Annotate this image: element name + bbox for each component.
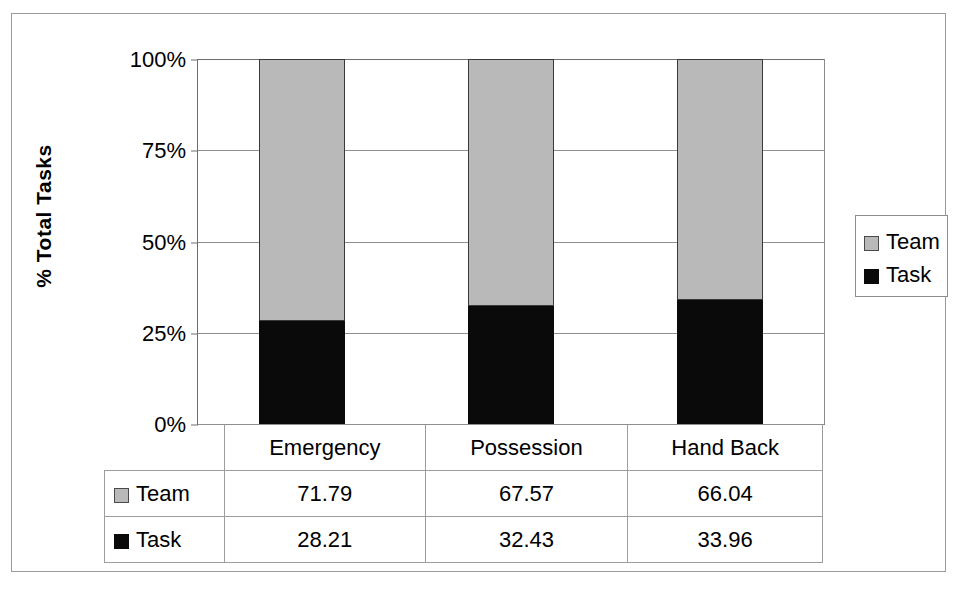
stacked-bar-possession[interactable] xyxy=(468,59,554,424)
ytick-mark-75 xyxy=(191,151,198,152)
bar-segment-task-1[interactable] xyxy=(468,306,554,424)
bar-slot-2 xyxy=(615,59,824,424)
table-cell-task-hand-back: 33.96 xyxy=(628,517,823,563)
bar-segment-team-0[interactable] xyxy=(259,59,345,321)
ytick-mark-100 xyxy=(191,60,198,61)
table-row-categories: Emergency Possession Hand Back xyxy=(105,425,823,471)
team-swatch-icon xyxy=(114,488,129,503)
legend-entry-task[interactable]: Task xyxy=(864,258,947,291)
table-rowlabel-task-text: Task xyxy=(136,527,181,552)
table-cell-task-possession: 32.43 xyxy=(425,517,628,563)
chart-frame: % Total Tasks 100% 75% 50% 25% 0% xyxy=(11,13,946,572)
bar-segment-task-2[interactable] xyxy=(677,300,763,424)
table-cell-team-hand-back: 66.04 xyxy=(628,471,823,517)
stacked-bar-emergency[interactable] xyxy=(259,59,345,424)
legend-label-team: Team xyxy=(886,229,940,254)
bar-segment-team-2[interactable] xyxy=(677,59,763,300)
table-rowlabel-team: Team xyxy=(105,471,225,517)
legend: Team Task xyxy=(855,215,948,297)
ytick-label-75: 75% xyxy=(142,138,186,164)
bar-segment-team-1[interactable] xyxy=(468,59,554,306)
table-cell-task-emergency: 28.21 xyxy=(225,517,426,563)
ytick-mark-50 xyxy=(191,242,198,243)
data-table: Emergency Possession Hand Back Team 71.7… xyxy=(104,425,823,563)
table-row-task: Task 28.21 32.43 33.96 xyxy=(105,517,823,563)
table-cell-team-possession: 67.57 xyxy=(425,471,628,517)
legend-label-task: Task xyxy=(886,262,931,287)
team-swatch-icon xyxy=(864,236,879,251)
ytick-mark-25 xyxy=(191,333,198,334)
table-header-hand-back: Hand Back xyxy=(628,425,823,471)
plot-area: 100% 75% 50% 25% 0% xyxy=(197,59,825,425)
task-swatch-icon xyxy=(864,269,879,284)
table-row-team: Team 71.79 67.57 66.04 xyxy=(105,471,823,517)
table-rowlabel-team-text: Team xyxy=(136,481,190,506)
task-swatch-icon xyxy=(114,534,129,549)
legend-entry-team[interactable]: Team xyxy=(864,225,947,258)
ytick-label-50: 50% xyxy=(142,230,186,256)
table-cell-team-emergency: 71.79 xyxy=(225,471,426,517)
table-header-possession: Possession xyxy=(425,425,628,471)
ytick-label-25: 25% xyxy=(142,321,186,347)
ytick-label-100: 100% xyxy=(130,47,186,73)
stacked-bar-hand-back[interactable] xyxy=(677,59,763,424)
bar-slot-0 xyxy=(198,59,407,424)
table-header-emergency: Emergency xyxy=(225,425,426,471)
bar-segment-task-0[interactable] xyxy=(259,321,345,424)
bar-slot-1 xyxy=(407,59,616,424)
table-stub-empty xyxy=(105,425,225,471)
table-rowlabel-task: Task xyxy=(105,517,225,563)
y-axis-title: % Total Tasks xyxy=(32,96,56,336)
